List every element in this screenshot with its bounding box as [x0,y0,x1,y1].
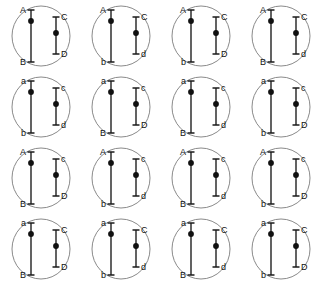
long-chromosome-centromere [268,18,274,24]
allele-label-long-top: a [261,218,266,228]
long-chromosome: ab [261,218,275,280]
short-chromosome-centromere [53,30,59,36]
allele-label-short-bottom: d [221,191,226,201]
allele-label-short-bottom: d [141,191,146,201]
cell-6: aBcD [80,71,160,142]
allele-label-short-bottom: d [221,262,226,272]
allele-label-short-top: c [301,83,306,93]
long-chromosome-centromere [268,231,274,237]
short-chromosome: Cd [213,225,229,272]
allele-label-short-bottom: D [141,120,148,130]
cell-drawing-8: abcD [240,71,320,142]
allele-label-short-top: c [141,83,146,93]
cell-15: aBCd [160,213,240,284]
long-chromosome-centromere [108,231,114,237]
short-chromosome: Cd [133,12,149,59]
allele-label-long-bottom: b [261,270,266,280]
allele-label-short-top: C [301,225,308,235]
short-chromosome-centromere [213,172,219,178]
long-chromosome: AB [260,5,275,67]
long-chromosome: aB [180,218,195,280]
long-chromosome-centromere [188,160,194,166]
cell-drawing-2: AbCd [80,0,160,71]
short-chromosome-centromere [293,172,299,178]
allele-label-short-bottom: d [141,262,146,272]
cell-drawing-3: AbCD [160,0,240,71]
allele-label-long-top: A [100,147,106,157]
short-chromosome: cd [133,154,147,201]
allele-label-short-top: C [141,225,148,235]
allele-label-short-top: c [301,154,306,164]
allele-label-long-bottom: b [261,199,266,209]
long-chromosome-centromere [108,89,114,95]
long-chromosome-centromere [188,18,194,24]
long-chromosome: Ab [180,5,195,67]
cell-drawing-11: ABcd [160,142,240,213]
allele-label-long-top: a [261,76,266,86]
allele-label-long-top: a [101,76,106,86]
long-chromosome-centromere [188,231,194,237]
allele-label-short-bottom: D [301,191,308,201]
allele-label-long-top: A [260,5,266,15]
short-chromosome: CD [53,12,69,59]
short-chromosome: Cd [293,12,309,59]
cell-2: AbCd [80,0,160,71]
allele-label-short-top: c [221,83,226,93]
short-chromosome-centromere [53,172,59,178]
short-chromosome-centromere [133,172,139,178]
long-chromosome: Ab [100,147,115,209]
allele-label-long-bottom: b [21,128,26,138]
long-chromosome-centromere [268,160,274,166]
cell-10: Abcd [80,142,160,213]
long-chromosome: ab [21,76,35,138]
cell-9: ABcD [0,142,80,213]
long-chromosome: AB [20,5,35,67]
allele-label-long-top: A [20,147,26,157]
allele-label-short-bottom: D [301,262,308,272]
allele-label-long-top: A [260,147,266,157]
short-chromosome: cd [213,83,227,130]
cell-4: ABCd [240,0,320,71]
long-chromosome: AB [20,147,35,209]
cell-16: abCD [240,213,320,284]
long-chromosome: AB [180,147,195,209]
short-chromosome-centromere [133,101,139,107]
short-chromosome-centromere [293,101,299,107]
long-chromosome-centromere [28,89,34,95]
long-chromosome: ab [261,76,275,138]
allele-label-long-top: A [180,5,186,15]
cell-drawing-15: aBCd [160,213,240,284]
short-chromosome: CD [213,12,229,59]
short-chromosome: CD [53,225,69,272]
cell-drawing-10: Abcd [80,142,160,213]
allele-label-short-top: c [221,154,226,164]
short-chromosome-centromere [53,101,59,107]
allele-label-long-top: a [21,76,26,86]
allele-label-short-bottom: d [141,49,146,59]
allele-label-short-top: C [141,12,148,22]
long-chromosome: aB [180,76,195,138]
allele-label-long-bottom: B [180,199,186,209]
allele-label-short-bottom: d [301,49,306,59]
allele-label-long-top: a [181,218,186,228]
allele-label-short-top: C [221,225,228,235]
allele-label-short-bottom: D [221,49,228,59]
long-chromosome-centromere [188,89,194,95]
cell-grid: ABCDAbCdAbCDABCdabcdaBcDaBcdabcDABcDAbcd… [0,0,320,287]
cell-3: AbCD [160,0,240,71]
allele-label-short-bottom: D [61,49,68,59]
long-chromosome: aB [20,218,35,280]
long-chromosome: ab [101,218,115,280]
cell-drawing-4: ABCd [240,0,320,71]
long-chromosome: Ab [260,147,275,209]
short-chromosome: CD [293,225,309,272]
cell-drawing-12: AbcD [240,142,320,213]
short-chromosome: cd [213,154,227,201]
short-chromosome-centromere [133,243,139,249]
allele-label-long-bottom: b [181,57,186,67]
allele-label-long-bottom: B [260,57,266,67]
allele-label-long-top: a [101,218,106,228]
long-chromosome: aB [100,76,115,138]
allele-label-short-top: C [301,12,308,22]
long-chromosome: Ab [100,5,115,67]
